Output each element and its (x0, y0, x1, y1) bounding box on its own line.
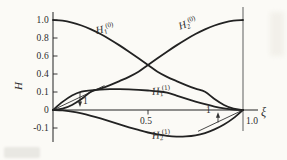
curve-label-sup: (1) (161, 83, 170, 92)
y-tick-label: 0 (20, 105, 49, 116)
y-tick-label: 0.8 (20, 33, 49, 44)
curve-label-h1-1: H1(1) (151, 83, 170, 99)
tangent-line-right (198, 110, 243, 131)
curve-label-h2-1: H2(1) (151, 127, 170, 143)
down-arrow-icon (78, 102, 82, 107)
curve-label-sup: (0) (104, 20, 114, 30)
slope-marker-left: 1 (83, 96, 88, 106)
slope-marker-right: 1 (206, 105, 211, 115)
x-axis-label: ξ (261, 105, 266, 120)
y-tick-label: 1.0 (20, 15, 49, 26)
y-tick-label: 0.4 (20, 69, 49, 80)
x-tick-label: 0.5 (132, 116, 160, 127)
curve-label-sup: (1) (161, 127, 170, 136)
up-arrow-icon (216, 112, 220, 118)
hermite-shape-functions-figure: H 1.0 0.8 0.6 0.4 0.1 0 -0.1 0.5 1.0 ξ H… (0, 0, 287, 160)
y-tick-label: 0.1 (20, 87, 49, 98)
y-tick-label: 0.6 (20, 51, 49, 62)
y-tick-label: -0.1 (20, 123, 49, 134)
